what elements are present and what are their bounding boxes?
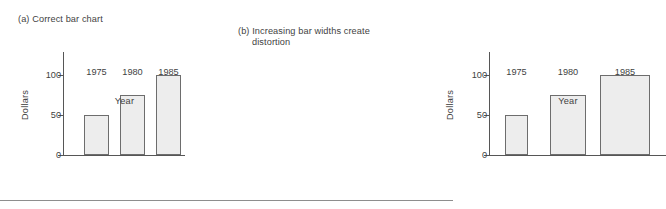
x-axis-title: Year [64, 96, 185, 106]
bar-1975 [505, 115, 528, 155]
panel-a-plot-area: 0 50 100 Dollars 1975 1980 1985 Year [64, 62, 185, 155]
bar-1975 [84, 115, 109, 155]
bar-1985 [156, 75, 181, 155]
x-tick-label-1985: 1985 [158, 67, 178, 77]
y-axis-title: Dollars [20, 90, 30, 120]
y-tick-label-0: 0 [56, 150, 61, 160]
x-tick-label-1980: 1980 [558, 67, 578, 77]
panel-b-caption: (b) Increasing bar widths create distort… [238, 14, 423, 60]
panel-a-caption: (a) Correct bar chart [18, 14, 103, 26]
panel-b-caption-line1: (b) Increasing bar widths create [238, 26, 370, 36]
x-tick-label-1980: 1980 [122, 67, 142, 77]
x-tick-label-1985: 1985 [615, 67, 635, 77]
x-axis-title: Year [480, 96, 656, 106]
y-tick-label-100: 100 [46, 70, 61, 80]
panel-b: (b) Increasing bar widths create distort… [226, 0, 453, 196]
panel-b-caption-line2: distortion [238, 37, 423, 49]
y-tick-label-50: 50 [477, 110, 487, 120]
bottom-divider [0, 200, 453, 201]
x-tick-label-1975: 1975 [86, 67, 106, 77]
y-tick-label-0: 0 [482, 150, 487, 160]
y-tick-label-50: 50 [51, 110, 61, 120]
panel-a: (a) Correct bar chart 0 50 100 Dollars [0, 0, 226, 196]
panel-b-plot-area: 0 50 100 Dollars 1975 1980 1985 Year [490, 62, 666, 155]
bar-1985 [600, 75, 650, 155]
y-tick-label-100: 100 [472, 70, 487, 80]
x-tick-label-1975: 1975 [506, 67, 526, 77]
y-axis-title: Dollars [445, 90, 455, 120]
